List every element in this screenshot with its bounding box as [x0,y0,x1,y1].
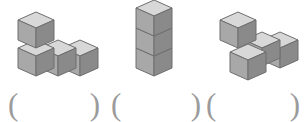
open-paren-1: ( [8,89,18,120]
figure-stepped-shape-four-cubes [214,0,304,88]
figure-vertical-tower-three-cubes [128,0,188,88]
answer-input-1[interactable] [18,86,89,122]
answer-slot-3[interactable]: ( ) [206,86,300,122]
close-paren-1: ) [90,89,100,120]
figure-3-drawing [214,0,304,88]
answer-input-2[interactable] [121,86,190,122]
answer-slot-1[interactable]: ( ) [8,86,100,122]
open-paren-3: ( [206,89,216,120]
figure-1-drawing [10,0,102,88]
answers-row: ( ) ( ) ( ) [0,86,306,122]
figure-l-shape-four-cubes [10,0,102,88]
answer-input-3[interactable] [216,86,289,122]
worksheet-page: ( ) ( ) ( ) [0,0,306,122]
answer-slot-2[interactable]: ( ) [111,86,201,122]
close-paren-2: ) [191,89,201,120]
figure-2-drawing [128,0,188,88]
close-paren-3: ) [290,89,300,120]
open-paren-2: ( [111,89,121,120]
figures-row [0,0,306,88]
